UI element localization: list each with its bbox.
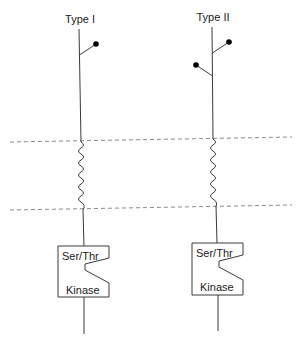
type-1-extracellular-line bbox=[79, 29, 81, 142]
membrane-outer-boundary bbox=[10, 137, 292, 142]
type-1-ligand-dot bbox=[93, 41, 99, 47]
type-1-transmembrane-wave bbox=[79, 142, 85, 210]
membrane-inner-boundary bbox=[10, 205, 292, 210]
type-2-kinase-bottom-label: Kinase bbox=[200, 282, 234, 293]
type-1-kinase-bottom-label: Kinase bbox=[66, 285, 100, 296]
type-1-kinase-top-label: Ser/Thr bbox=[62, 251, 99, 262]
type-1-label: Type I bbox=[65, 14, 95, 25]
type-2-ligand-dot-upper bbox=[226, 39, 232, 45]
type-2-branch-upper bbox=[212, 42, 229, 53]
type-2-transmembrane-wave bbox=[211, 139, 217, 206]
type-2-kinase-top-label: Ser/Thr bbox=[196, 248, 233, 259]
type-2-extracellular-line bbox=[212, 27, 213, 139]
type-1-branch bbox=[80, 44, 97, 55]
type-2-intracellular-line bbox=[216, 206, 217, 243]
type-2-label: Type II bbox=[196, 12, 229, 23]
type-2-ligand-dot-lower bbox=[193, 62, 199, 68]
type-2-branch-lower bbox=[196, 65, 213, 76]
receptor-diagram bbox=[0, 0, 298, 343]
type-1-intracellular-line bbox=[83, 210, 84, 246]
